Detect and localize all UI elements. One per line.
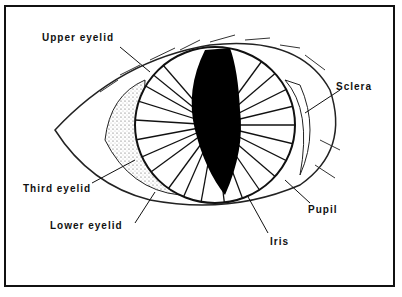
label-upper-eyelid: Upper eyelid	[42, 32, 114, 43]
cat-eye-illustration	[0, 0, 402, 297]
label-iris: Iris	[270, 236, 289, 247]
label-pupil: Pupil	[308, 204, 337, 215]
label-third-eyelid: Third eyelid	[23, 183, 91, 194]
label-lower-eyelid: Lower eyelid	[50, 220, 123, 231]
label-sclera: Sclera	[336, 81, 372, 92]
